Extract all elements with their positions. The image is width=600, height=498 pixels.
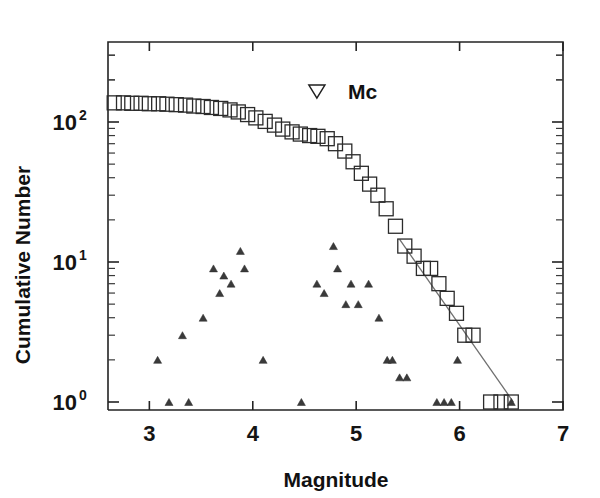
- x-tick-label-7: 7: [557, 421, 569, 446]
- frequency-magnitude-chart: 34567 100101102 Mc Magnitude Cumulative …: [0, 0, 600, 498]
- chart-figure: 34567 100101102 Mc Magnitude Cumulative …: [0, 0, 600, 498]
- y-tick-label-mantissa-0: 10: [53, 390, 77, 415]
- y-tick-label-mantissa-1: 10: [53, 250, 77, 275]
- x-tick-label-3: 3: [143, 421, 155, 446]
- mc-label: Mc: [348, 80, 377, 103]
- x-tick-label-5: 5: [350, 421, 362, 446]
- x-axis-title: Magnitude: [284, 468, 389, 491]
- chart-background: [0, 0, 600, 498]
- y-axis-title: Cumulative Number: [11, 166, 34, 364]
- x-tick-label-4: 4: [247, 421, 260, 446]
- y-tick-label-exponent-2: 2: [79, 107, 87, 123]
- y-tick-label-mantissa-2: 10: [53, 110, 77, 135]
- y-tick-label-exponent-0: 0: [79, 387, 87, 403]
- y-tick-label-exponent-1: 1: [79, 247, 87, 263]
- x-tick-label-6: 6: [453, 421, 465, 446]
